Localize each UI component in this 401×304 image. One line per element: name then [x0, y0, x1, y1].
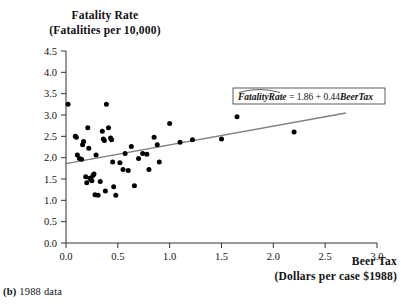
data-point: [178, 140, 183, 145]
data-point: [111, 184, 116, 189]
data-point: [292, 130, 297, 135]
scatter-plot: 0.00.51.01.52.02.53.03.54.04.50.00.51.01…: [0, 0, 401, 304]
figure-caption-label: (b): [3, 286, 16, 297]
regression-line: [66, 113, 346, 164]
y-tick-label: 4.0: [44, 67, 57, 78]
data-point: [167, 121, 172, 126]
regression-equation: FatalityRate = 1.86 + 0.44BeerTax: [237, 92, 373, 102]
data-point: [98, 179, 103, 184]
data-point: [103, 188, 108, 193]
data-point: [123, 151, 128, 156]
data-point: [109, 137, 114, 142]
x-tick-label: 1.0: [163, 251, 176, 262]
data-point: [86, 146, 91, 151]
data-point: [81, 139, 86, 144]
data-point: [104, 102, 109, 107]
data-point: [110, 159, 115, 164]
data-point: [136, 156, 141, 161]
data-point: [235, 114, 240, 119]
y-tick-label: 2.5: [44, 131, 57, 142]
data-point: [85, 125, 90, 130]
data-point: [91, 171, 96, 176]
y-tick-label: 1.5: [44, 174, 57, 185]
equation-annotation: FatalityRate = 1.86 + 0.44BeerTax: [233, 88, 385, 104]
data-point: [140, 151, 145, 156]
y-tick-label: 3.0: [44, 110, 57, 121]
data-point: [190, 137, 195, 142]
y-tick-label: 0.0: [44, 238, 57, 249]
data-point: [157, 159, 162, 164]
x-tick-label: 3.0: [370, 251, 383, 262]
data-point: [74, 135, 79, 140]
data-point: [106, 125, 111, 130]
data-point: [100, 129, 105, 134]
figure-caption: (b) 1988 data: [3, 286, 62, 297]
x-tick-label: 0.0: [59, 251, 72, 262]
data-points: [66, 102, 297, 198]
data-point: [144, 152, 149, 157]
figure-caption-text: 1988 data: [19, 286, 62, 297]
y-tick-label: 2.0: [44, 152, 57, 163]
data-point: [155, 142, 160, 147]
y-tick-label: 0.5: [44, 216, 57, 227]
y-tick-label: 3.5: [44, 88, 57, 99]
data-point: [79, 157, 84, 162]
data-point: [66, 102, 71, 107]
data-point: [117, 160, 122, 165]
data-point: [89, 178, 94, 183]
data-point: [146, 167, 151, 172]
y-tick-label: 4.5: [44, 46, 57, 57]
data-point: [102, 138, 107, 143]
data-point: [129, 144, 134, 149]
data-point: [84, 180, 89, 185]
data-point: [152, 135, 157, 140]
axes: [61, 51, 377, 248]
data-point: [126, 168, 131, 173]
x-tick-label: 2.0: [267, 251, 280, 262]
x-tick-label: 2.5: [319, 251, 332, 262]
data-point: [121, 167, 126, 172]
figure-1988-fatality-rate-vs-beer-tax: Fatality Rate (Fatalities per 10,000) Be…: [0, 0, 401, 304]
x-tick-label: 0.5: [111, 251, 124, 262]
data-point: [96, 193, 101, 198]
x-tick-label: 1.5: [215, 251, 228, 262]
data-point: [132, 183, 137, 188]
data-point: [94, 153, 99, 158]
y-tick-label: 1.0: [44, 195, 57, 206]
data-point: [219, 136, 224, 141]
data-point: [113, 193, 118, 198]
